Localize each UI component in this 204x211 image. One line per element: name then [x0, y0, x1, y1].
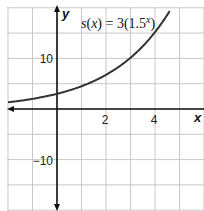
y-axis-label: y [61, 6, 70, 21]
y-axis-up-arrow-icon [54, 5, 60, 12]
y-tick-neg10: −10 [33, 154, 54, 168]
x-tick-4: 4 [151, 113, 158, 127]
equation-label: s(x) = 3(1.5x) [81, 14, 156, 32]
exponential-chart: y x 2 4 10 −10 s(x) = 3(1.5x) [0, 0, 204, 211]
y-tick-10: 10 [40, 52, 54, 66]
x-axis-label: x [193, 110, 202, 125]
x-tick-2: 2 [102, 113, 109, 127]
